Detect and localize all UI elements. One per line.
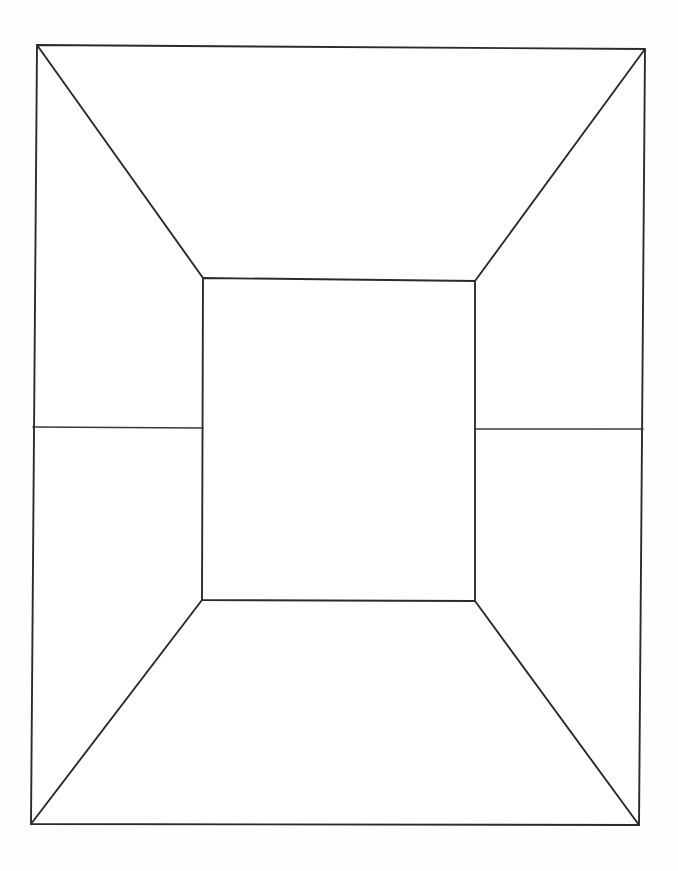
perspective-box-figure xyxy=(0,0,678,871)
drawing-canvas: One-Point Perspective Box One-point pers… xyxy=(0,0,678,871)
left-horizontal-line xyxy=(33,427,203,428)
back-wall-face xyxy=(202,278,475,601)
